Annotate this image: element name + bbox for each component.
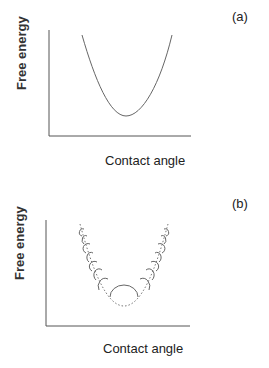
- panel-a: (a) Free energy Contact angle: [0, 0, 269, 180]
- free-energy-curve: [82, 35, 172, 116]
- panel-b: (b) Free energy Contact angle: [0, 180, 269, 368]
- y-axis-label: Free energy: [12, 206, 27, 280]
- panel-b-plot: [0, 180, 269, 368]
- metastable-bumps: [79, 229, 168, 297]
- panel-tag: (a): [232, 9, 248, 24]
- x-axis-label: Contact angle: [105, 153, 185, 168]
- x-axis-label: Contact angle: [103, 341, 183, 356]
- y-axis-label: Free energy: [14, 16, 29, 90]
- envelope-curve: [80, 224, 168, 306]
- panel-tag: (b): [232, 196, 248, 211]
